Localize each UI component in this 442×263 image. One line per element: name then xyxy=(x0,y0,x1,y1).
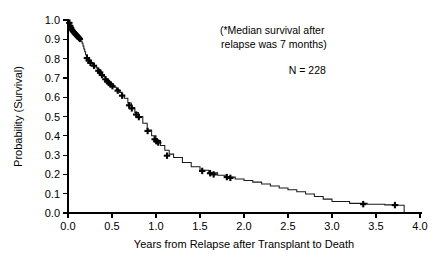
x-tick-label: 2.5 xyxy=(280,220,295,232)
x-axis-title: Years from Relapse after Transplant to D… xyxy=(134,238,354,250)
x-tick-label: 3.0 xyxy=(324,220,339,232)
y-tick-label: 0.8 xyxy=(45,53,60,65)
x-tick-label: 2.0 xyxy=(236,220,251,232)
x-tick-label: 0.0 xyxy=(60,220,75,232)
chart-page: 0.00.10.20.30.40.50.60.70.80.91.0 0.00.5… xyxy=(0,0,442,263)
y-tick-label: 0.4 xyxy=(45,130,60,142)
sample-size-note: N = 228 xyxy=(289,64,326,76)
survival-chart: 0.00.10.20.30.40.50.60.70.80.91.0 0.00.5… xyxy=(0,0,442,263)
y-tick-label: 0.6 xyxy=(45,91,60,103)
y-tick-label: 0.0 xyxy=(45,207,60,219)
median-survival-note-line2: relapse was 7 months) xyxy=(221,38,327,50)
y-tick-label: 0.7 xyxy=(45,72,60,84)
x-tick-label: 4.0 xyxy=(412,220,427,232)
x-tick-label: 1.5 xyxy=(192,220,207,232)
y-tick-label: 0.3 xyxy=(45,149,60,161)
x-tick-label: 3.5 xyxy=(368,220,383,232)
y-tick-label: 1.0 xyxy=(45,14,60,26)
x-tick-label: 0.5 xyxy=(104,220,119,232)
y-tick-label: 0.5 xyxy=(45,111,60,123)
y-axis-title: Probability (Survival) xyxy=(12,66,24,167)
y-tick-label: 0.1 xyxy=(45,188,60,200)
y-tick-label: 0.9 xyxy=(45,33,60,45)
median-survival-note-line1: (*Median survival after xyxy=(220,24,325,36)
x-tick-label: 1.0 xyxy=(148,220,163,232)
y-tick-label: 0.2 xyxy=(45,168,60,180)
